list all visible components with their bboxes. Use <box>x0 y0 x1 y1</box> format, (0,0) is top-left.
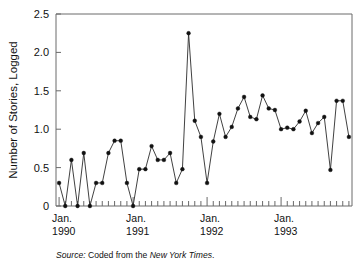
data-point <box>205 181 209 185</box>
data-point <box>174 181 178 185</box>
data-point <box>57 181 61 185</box>
data-point <box>107 151 111 155</box>
source-label: Source: <box>56 250 86 260</box>
data-point <box>267 107 271 111</box>
data-point <box>230 125 234 129</box>
data-point <box>199 135 203 139</box>
data-point <box>144 167 148 171</box>
y-tick-label: 1.0 <box>34 123 49 135</box>
data-point <box>211 140 215 144</box>
data-point <box>304 109 308 113</box>
data-point <box>322 115 326 119</box>
data-point <box>113 139 117 143</box>
data-point <box>248 115 252 119</box>
x-tick-label-year: 1993 <box>274 225 297 238</box>
data-point <box>279 127 283 131</box>
x-tick-label-month: Jan. <box>274 212 297 225</box>
data-point <box>310 131 314 135</box>
source-publication: New York Times <box>150 250 212 260</box>
x-tick-label-group: Jan.1990 <box>52 212 75 237</box>
data-point <box>292 127 296 131</box>
data-point <box>88 204 92 208</box>
data-point <box>125 181 129 185</box>
y-tick-label: 1.5 <box>34 85 49 97</box>
data-point <box>316 121 320 125</box>
data-point <box>273 108 277 112</box>
x-tick-label-group: Jan.1991 <box>126 212 149 237</box>
data-point <box>347 135 351 139</box>
data-point <box>150 144 154 148</box>
data-point <box>335 99 339 103</box>
data-point <box>156 158 160 162</box>
data-point <box>100 181 104 185</box>
data-point <box>298 120 302 124</box>
source-period: . <box>212 250 214 260</box>
data-point <box>341 99 345 103</box>
data-point <box>70 158 74 162</box>
data-point <box>131 204 135 208</box>
x-tick-label-year: 1990 <box>52 225 75 238</box>
y-axis-label: Number of Stories, Logged <box>7 41 19 178</box>
data-point-markers <box>57 31 351 208</box>
data-point <box>329 168 333 172</box>
data-point <box>242 95 246 99</box>
y-axis-title: Number of Stories, Logged <box>7 41 19 178</box>
y-axis-tick-labels: 00.51.01.52.02.5 <box>34 8 49 212</box>
data-point <box>137 167 141 171</box>
data-point <box>285 126 289 130</box>
x-tick-label-month: Jan. <box>52 212 75 225</box>
y-tick-label: 0 <box>43 200 49 212</box>
data-point <box>218 112 222 116</box>
data-point <box>82 151 86 155</box>
data-point <box>181 167 185 171</box>
y-axis-ticks <box>56 14 61 206</box>
data-point <box>187 31 191 35</box>
data-point <box>94 181 98 185</box>
figure-container: 00.51.01.52.02.5 Number of Stories, Logg… <box>0 0 363 270</box>
data-point <box>162 158 166 162</box>
data-point <box>236 107 240 111</box>
y-tick-label: 2.0 <box>34 46 49 58</box>
x-tick-label-month: Jan. <box>126 212 149 225</box>
data-series-line <box>59 33 349 206</box>
data-point <box>119 139 123 143</box>
data-point <box>76 204 80 208</box>
data-point <box>261 94 265 98</box>
data-point <box>193 119 197 123</box>
source-note: Source: Coded from the New York Times. <box>56 250 214 260</box>
data-point <box>255 117 259 121</box>
x-tick-label-group: Jan.1992 <box>200 212 223 237</box>
x-tick-label-year: 1991 <box>126 225 149 238</box>
data-point <box>224 135 228 139</box>
data-point <box>63 204 67 208</box>
source-text: Coded from the <box>86 250 150 260</box>
data-point <box>168 151 172 155</box>
x-tick-label-year: 1992 <box>200 225 223 238</box>
y-tick-label: 2.5 <box>34 8 49 20</box>
x-tick-label-month: Jan. <box>200 212 223 225</box>
x-axis-ticks <box>59 197 349 206</box>
y-tick-label: 0.5 <box>34 162 49 174</box>
x-tick-label-group: Jan.1993 <box>274 212 297 237</box>
